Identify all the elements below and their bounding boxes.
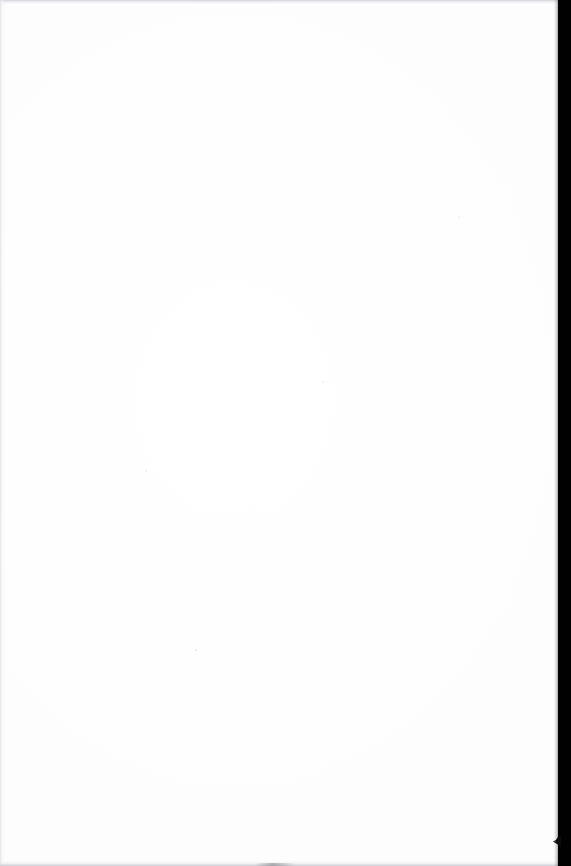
paper-surface	[0, 0, 559, 866]
spine-shadow-band	[558, 0, 571, 866]
paper-grain-texture	[0, 0, 559, 866]
scanned-page	[0, 0, 571, 866]
